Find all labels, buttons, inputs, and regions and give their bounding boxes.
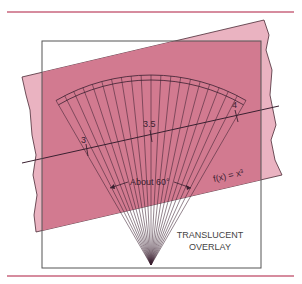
tick-label-3: 3 [81, 135, 86, 145]
tick-label-3-5: 3.5 [143, 119, 156, 129]
overlay-label-line1: TRANSLUCENT [177, 230, 244, 240]
translucent-overlay-diagram: 3 3.5 4 About 60° f(x) = x³ TRANSLUCENT … [0, 0, 302, 284]
angle-label: About 60° [130, 177, 170, 187]
tick-label-4: 4 [232, 100, 237, 110]
overlay-label-line2: OVERLAY [189, 242, 231, 252]
